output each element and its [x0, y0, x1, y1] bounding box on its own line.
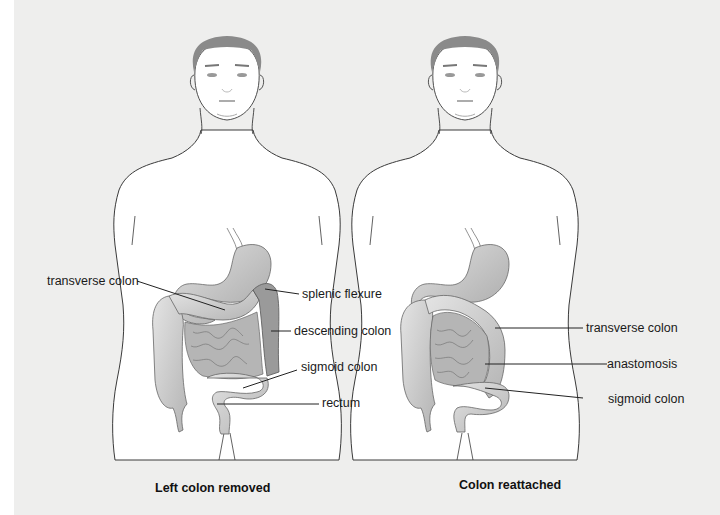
figure-left	[113, 36, 342, 460]
label-transverse-colon-left: transverse colon	[47, 274, 139, 288]
caption-colon-reattached: Colon reattached	[459, 478, 561, 492]
label-descending-colon: descending colon	[294, 324, 391, 338]
colectomy-illustration	[0, 0, 720, 515]
label-anastomosis: anastomosis	[607, 357, 677, 371]
caption-left-colon-removed: Left colon removed	[155, 481, 270, 495]
label-splenic-flexure: splenic flexure	[302, 287, 382, 301]
label-transverse-colon-right: transverse colon	[586, 321, 678, 335]
figure-right	[351, 36, 607, 460]
label-sigmoid-colon-left: sigmoid colon	[301, 360, 377, 374]
label-rectum: rectum	[322, 396, 360, 410]
label-sigmoid-colon-right: sigmoid colon	[608, 392, 684, 406]
